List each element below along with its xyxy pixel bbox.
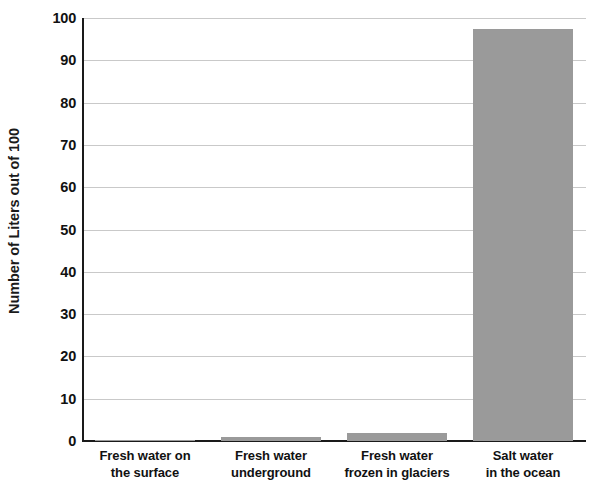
x-axis-category-label-line: in the ocean: [462, 464, 584, 481]
y-axis-tick-label: 0: [68, 433, 76, 449]
x-axis-labels: Fresh water onthe surfaceFresh waterunde…: [82, 447, 586, 492]
y-axis-tick-label: 40: [60, 264, 76, 280]
bar: [95, 440, 195, 442]
x-axis-category-label: Fresh water onthe surface: [82, 447, 208, 492]
y-axis-tick-label: 60: [60, 179, 76, 195]
y-axis-tick-labels: 1009080706050403020100: [28, 0, 82, 492]
bar: [473, 29, 573, 441]
y-axis-tick-label: 30: [60, 306, 76, 322]
x-axis-category-label-line: underground: [210, 464, 332, 481]
bar: [347, 433, 447, 441]
x-axis-category-label-line: Fresh water: [336, 447, 458, 464]
x-axis-category-label: Fresh waterunderground: [208, 447, 334, 492]
y-axis-tick-label: 20: [60, 348, 76, 364]
y-axis-tick-label: 50: [60, 222, 76, 238]
x-axis-category-label-line: frozen in glaciers: [336, 464, 458, 481]
x-axis-category-label-line: Fresh water on: [84, 447, 206, 464]
y-axis-title-text: Number of Liters out of 100: [6, 128, 22, 314]
bar-chart: Number of Liters out of 100 100908070605…: [0, 0, 589, 492]
x-axis-category-label: Salt waterin the ocean: [460, 447, 586, 492]
y-axis-tick-label: 10: [60, 391, 76, 407]
x-axis-category-label: Fresh waterfrozen in glaciers: [334, 447, 460, 492]
y-axis-tick-label: 70: [60, 137, 76, 153]
y-axis-tick-label: 90: [60, 52, 76, 68]
bars-layer: [82, 18, 586, 441]
y-axis-tick-label: 100: [52, 10, 76, 26]
x-axis-category-label-line: Fresh water: [210, 447, 332, 464]
x-axis-category-label-line: Salt water: [462, 447, 584, 464]
bar: [221, 437, 321, 441]
y-axis-title: Number of Liters out of 100: [0, 0, 28, 441]
x-axis-category-label-line: the surface: [84, 464, 206, 481]
y-axis-tick-label: 80: [60, 95, 76, 111]
